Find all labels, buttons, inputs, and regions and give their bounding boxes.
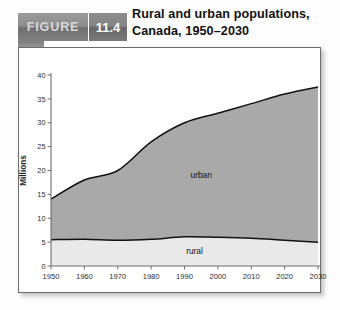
figure-badge: FIGURE 11.4: [18, 13, 127, 41]
figure-badge-number: 11.4: [88, 13, 127, 41]
figure-title-line-1: Rural and urban populations,: [132, 6, 337, 23]
figure-title: Rural and urban populations, Canada, 195…: [132, 6, 337, 39]
figure-container: FIGURE 11.4 Rural and urban populations,…: [0, 0, 340, 310]
figure-title-line-2: Canada, 1950–2030: [132, 23, 337, 40]
chart-panel: [18, 47, 321, 293]
figure-badge-word: FIGURE: [18, 13, 88, 41]
